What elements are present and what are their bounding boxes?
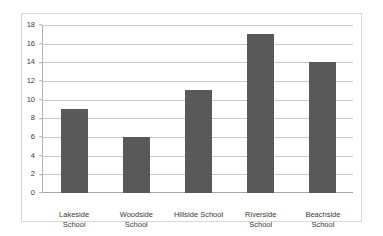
x-axis-label: Hillside School	[167, 207, 229, 230]
y-axis-tick-mark	[39, 81, 42, 82]
y-axis-tick-14: 14	[27, 59, 42, 67]
y-axis-tick-mark	[39, 155, 42, 156]
y-axis-tick-label: 16	[27, 40, 39, 48]
plot-area: 024681012141618	[42, 25, 353, 193]
y-axis-tick-mark	[39, 137, 42, 138]
y-axis-tick-label: 10	[27, 96, 39, 104]
y-axis-tick-label: 2	[31, 171, 39, 179]
x-axis-label: WoodsideSchool	[105, 207, 167, 230]
bar[interactable]	[247, 34, 274, 193]
y-axis-tick-2: 2	[31, 171, 42, 179]
y-axis-tick-mark	[39, 43, 42, 44]
y-axis-tick-mark	[39, 62, 42, 63]
y-axis-tick-mark	[39, 193, 42, 194]
x-axis-labels-group: LakesideSchoolWoodsideSchoolHillside Sch…	[43, 207, 354, 230]
x-axis-label: BeachsideSchool	[292, 207, 354, 230]
y-axis-tick-18: 18	[27, 21, 42, 29]
y-axis-tick-mark	[39, 25, 42, 26]
y-axis-tick-mark	[39, 174, 42, 175]
y-axis-tick-8: 8	[31, 115, 42, 123]
y-axis-tick-label: 0	[31, 189, 39, 197]
bar-slot	[291, 25, 353, 193]
y-axis-tick-0: 0	[31, 189, 42, 197]
bar[interactable]	[123, 137, 150, 193]
y-axis-tick-label: 18	[27, 21, 39, 29]
bar[interactable]	[61, 109, 88, 193]
bar-slot	[229, 25, 291, 193]
bar-chart-figure: 024681012141618 LakesideSchoolWoodsideSc…	[21, 13, 362, 222]
x-axis-label: LakesideSchool	[43, 207, 105, 230]
y-axis-tick-mark	[39, 118, 42, 119]
y-axis-tick-label: 4	[31, 152, 39, 160]
x-axis-label-line: School	[231, 220, 291, 230]
x-axis-label-line: School	[44, 220, 104, 230]
x-axis-label-line: Woodside	[106, 210, 166, 220]
x-axis-label-line: Hillside School	[168, 210, 228, 220]
bar-slot	[43, 25, 105, 193]
bar[interactable]	[185, 90, 212, 193]
y-axis-tick-label: 8	[31, 115, 39, 123]
y-axis-tick-12: 12	[27, 77, 42, 85]
x-axis-label-line: Lakeside	[44, 210, 104, 220]
y-axis-tick-label: 14	[27, 59, 39, 67]
y-axis-tick-6: 6	[31, 133, 42, 141]
bar-slot	[105, 25, 167, 193]
x-axis-label-line: Beachside	[293, 210, 353, 220]
y-axis-tick-10: 10	[27, 96, 42, 104]
y-axis-tick-4: 4	[31, 152, 42, 160]
y-axis-tick-label: 12	[27, 77, 39, 85]
x-axis-label-line: School	[293, 220, 353, 230]
bar[interactable]	[309, 62, 336, 193]
y-axis-tick-mark	[39, 99, 42, 100]
x-axis-label: RiversideSchool	[230, 207, 292, 230]
bar-slot	[167, 25, 229, 193]
y-axis-tick-16: 16	[27, 40, 42, 48]
bars-group	[43, 25, 353, 193]
y-axis-tick-label: 6	[31, 133, 39, 141]
x-axis-label-line: School	[106, 220, 166, 230]
x-axis-label-line: Riverside	[231, 210, 291, 220]
